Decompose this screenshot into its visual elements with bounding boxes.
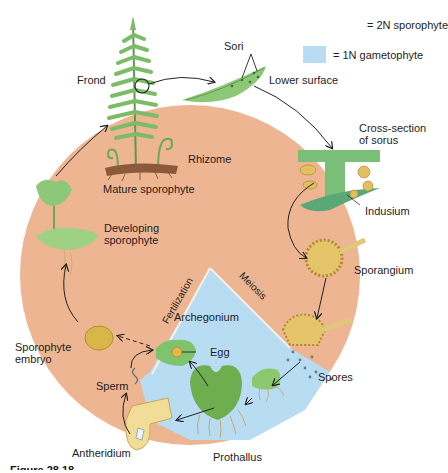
legend-1n-label: = 1N gametophyte — [333, 49, 423, 61]
label-sperm: Sperm — [96, 380, 128, 392]
label-cross-section-line1: Cross-section — [359, 122, 426, 134]
label-developing-line2: sporophyte — [104, 234, 158, 246]
label-archegonium: Archegonium — [174, 311, 239, 323]
legend-2n-label: = 2N sporophyte — [367, 19, 448, 31]
label-embryo-line1: Sporophyte — [15, 341, 71, 353]
label-rhizome: Rhizome — [188, 153, 231, 165]
label-embryo-line2: embryo — [15, 353, 52, 365]
label-sori: Sori — [224, 40, 244, 52]
label-cross-section-line2: of sorus — [359, 134, 398, 146]
arrow-frond-to-leaflet — [149, 77, 214, 84]
label-frond: Frond — [77, 74, 106, 86]
label-sporangium: Sporangium — [354, 264, 413, 276]
label-lower-surface: Lower surface — [269, 74, 338, 86]
label-developing-line1: Developing — [104, 222, 159, 234]
label-indusium: Indusium — [365, 205, 410, 217]
label-antheridium: Antheridium — [72, 447, 131, 459]
label-mature-sporophyte: Mature sporophyte — [103, 183, 195, 195]
label-spores: Spores — [318, 371, 353, 383]
label-egg: Egg — [210, 346, 230, 358]
legend-1n-swatch — [303, 46, 326, 63]
embryo-illustration — [85, 326, 113, 350]
figure-caption: Figure 28.18 — [10, 464, 80, 470]
label-prothallus: Prothallus — [213, 451, 262, 463]
